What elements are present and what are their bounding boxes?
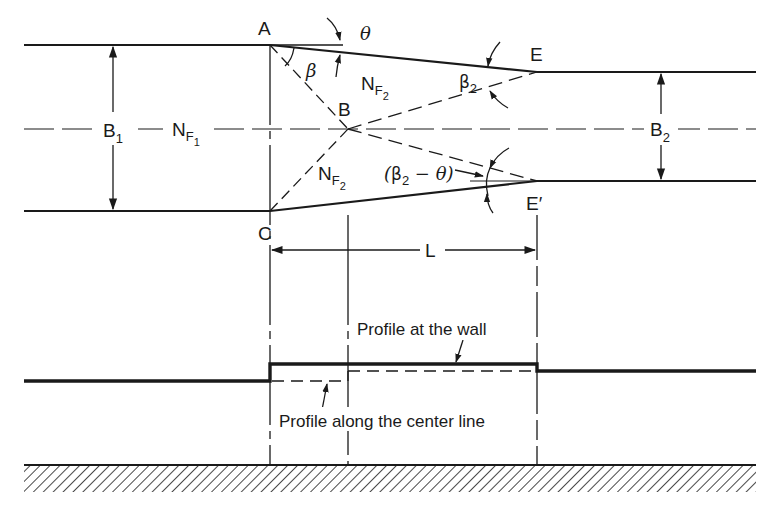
beta2-theta-arrow-lower (487, 194, 493, 213)
point-E-label: E (530, 44, 543, 65)
wall-profile-line (24, 364, 756, 381)
wall-profile-pointer (456, 340, 463, 362)
NF2-upper-label: NF2 (361, 73, 389, 102)
NF2-lower-label: NF2 (318, 163, 346, 192)
beta2-arrow-lower (490, 91, 508, 108)
beta-label: β (305, 60, 316, 81)
wave-front-AB (270, 45, 348, 129)
beta2-theta-arrow-upper (490, 148, 509, 168)
theta-arrow-lower (336, 55, 340, 77)
beta2-minus-theta-label: (β2 − θ) (384, 163, 454, 188)
beta2-theta-arc (486, 168, 490, 196)
point-Eprime-label: E′ (526, 193, 543, 214)
theta-label: θ (360, 23, 371, 44)
point-A-label: A (258, 18, 271, 39)
beta2-arrow-upper (488, 42, 500, 66)
point-labels: A B C E E′ (258, 18, 543, 244)
channel-bed-hatch (24, 465, 756, 492)
wave-front-BE (348, 72, 537, 129)
beta2-theta-pointer (455, 170, 483, 176)
L-label: L (425, 240, 436, 261)
centerline-profile-pointer (322, 384, 327, 410)
theta-arrow-upper (327, 18, 340, 40)
channel-contraction-diagram: A B C E E′ θ β β2 (β2 − θ) B1 B2 L NF1 N… (0, 0, 770, 510)
point-C-label: C (258, 223, 272, 244)
beta2-label: β2 (459, 72, 477, 96)
plan-view (24, 18, 756, 465)
centerline-profile-caption: Profile along the center line (279, 412, 485, 431)
beta2-subscript: 2 (470, 81, 477, 96)
wave-front-CB (270, 129, 348, 211)
wall-profile-caption: Profile at the wall (357, 320, 486, 339)
point-B-label: B (338, 99, 351, 120)
beta2-base: β (459, 72, 470, 92)
